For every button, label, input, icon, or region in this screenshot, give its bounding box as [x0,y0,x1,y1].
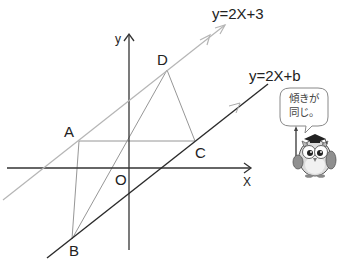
owl-teacher-illustration [293,126,336,178]
origin-label: O [115,172,127,187]
segment-dc [167,70,195,141]
quadrilateral [72,70,195,239]
equation-label-line2: y=2X+b [249,68,301,83]
segment-ab [72,141,79,239]
speech-line-2: 同じ。 [284,106,324,120]
speech-line-1: 傾きが [284,92,324,106]
y-axis-label: y [115,33,121,45]
diagram-canvas [0,0,345,261]
point-b-label: B [69,243,79,258]
equation-label-line1: y=2X+3 [212,6,264,21]
axes [7,34,251,250]
speech-bubble-text: 傾きが 同じ。 [284,92,324,119]
line-y-2x-plus-b [47,84,268,258]
point-c-label: C [195,145,206,160]
x-axis-label: X [243,176,251,188]
point-a-label: A [64,124,74,139]
line-y-2x-plus-3 [3,25,225,200]
segment-bd [72,70,167,239]
direction-arrow-icon [229,103,240,113]
point-d-label: D [157,52,168,67]
